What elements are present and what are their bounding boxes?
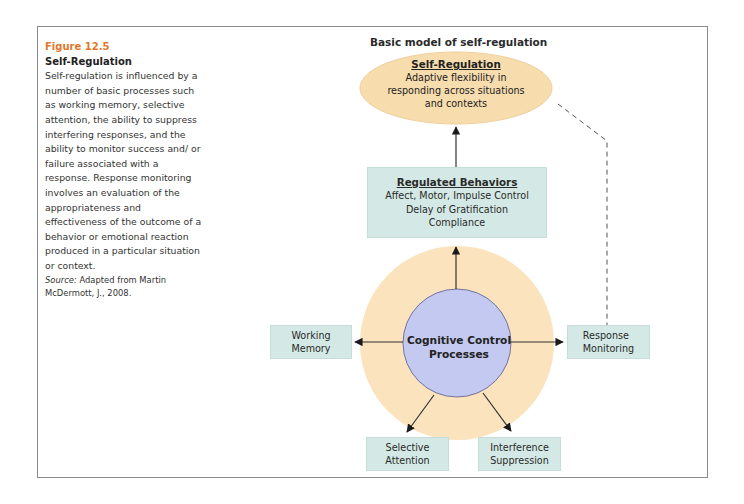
regulated-behaviors-line: Delay of Gratification [385, 203, 529, 217]
self-regulation-node: Self-Regulation Adaptive flexibility in … [366, 58, 546, 110]
box-line: Interference [490, 441, 549, 455]
box-line: Memory [291, 342, 330, 356]
cognitive-control-label: Cognitive Control Processes [394, 333, 524, 361]
box-line: Monitoring [583, 342, 634, 356]
regulated-behaviors-heading: Regulated Behaviors [385, 176, 529, 190]
response-monitoring-box: Response Monitoring [567, 325, 650, 359]
feedback-dashed-line [558, 104, 607, 325]
box-line: Attention [385, 454, 429, 468]
box-line: Suppression [490, 454, 549, 468]
box-line: Response [583, 329, 634, 343]
selective-attention-box: Selective Attention [366, 437, 449, 471]
center-line: Cognitive Control [394, 333, 524, 347]
regulated-behaviors-line: Compliance [385, 216, 529, 230]
center-line: Processes [394, 347, 524, 361]
regulated-behaviors-box: Regulated Behaviors Affect, Motor, Impul… [367, 167, 547, 238]
box-line: Working [291, 329, 330, 343]
self-regulation-line: responding across situations [366, 84, 546, 97]
box-line: Selective [385, 441, 429, 455]
working-memory-box: Working Memory [270, 325, 352, 359]
regulated-behaviors-line: Affect, Motor, Impulse Control [385, 189, 529, 203]
self-regulation-line: and contexts [366, 97, 546, 110]
self-regulation-heading: Self-Regulation [366, 58, 546, 71]
interference-suppression-box: Interference Suppression [478, 437, 561, 471]
self-regulation-line: Adaptive flexibility in [366, 71, 546, 84]
